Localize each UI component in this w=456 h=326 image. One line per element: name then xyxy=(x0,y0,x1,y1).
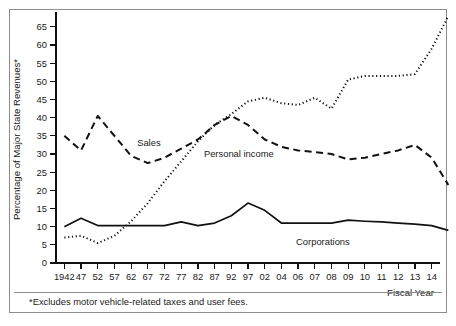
x-axis-tick-label: 1942 xyxy=(54,271,75,282)
series-label-sales: Sales xyxy=(137,137,161,148)
x-axis-tick-label: 13 xyxy=(410,271,420,282)
footnote-text: *Excludes motor vehicle-related taxes an… xyxy=(29,296,248,307)
x-axis-tick-label: 11 xyxy=(377,271,387,282)
series-label-personal-income: Personal income xyxy=(204,148,274,159)
x-axis-tick-label: 07 xyxy=(310,271,320,282)
x-axis-tick-label: 47 xyxy=(76,271,86,282)
x-axis-tick-label: 52 xyxy=(93,271,103,282)
x-axis-tick-label: 72 xyxy=(159,271,169,282)
figure-container: 0510152025303540455055606519424752576267… xyxy=(0,0,456,326)
x-axis-tick-label: 04 xyxy=(276,271,286,282)
x-axis-tick-label: 57 xyxy=(109,271,119,282)
x-axis-tick-label: 92 xyxy=(226,271,236,282)
y-axis-tick-label: 30 xyxy=(37,148,47,159)
y-axis-tick-label: 25 xyxy=(37,167,47,178)
y-axis-tick-label: 15 xyxy=(37,203,47,214)
y-axis-tick-label: 5 xyxy=(42,239,47,250)
series-line-personal-income xyxy=(64,16,448,243)
x-axis-tick-label: 12 xyxy=(393,271,403,282)
x-axis-tick-label: 97 xyxy=(243,271,253,282)
y-axis-tick-label: 40 xyxy=(37,112,47,123)
y-axis-tick-label: 65 xyxy=(37,21,47,32)
y-axis-tick-label: 50 xyxy=(37,76,47,87)
x-axis-tick-label: 02 xyxy=(259,271,269,282)
y-axis-tick-label: 55 xyxy=(37,58,47,69)
y-axis-tick-label: 60 xyxy=(37,39,47,50)
x-axis-tick-label: 06 xyxy=(293,271,303,282)
x-axis-tick-label: 08 xyxy=(326,271,336,282)
y-axis-tick-label: 0 xyxy=(42,257,47,268)
revenue-line-chart: 0510152025303540455055606519424752576267… xyxy=(0,0,456,326)
y-axis-title: Percentage of Major State Revenues* xyxy=(11,59,22,220)
y-axis-tick-label: 20 xyxy=(37,185,47,196)
series-line-corporations xyxy=(64,203,448,230)
x-axis-tick-label: 10 xyxy=(360,271,370,282)
x-axis-tick-label: 82 xyxy=(193,271,203,282)
y-axis-tick-label: 35 xyxy=(37,130,47,141)
y-axis-tick-label: 45 xyxy=(37,94,47,105)
series-label-corporations: Corporations xyxy=(296,236,350,247)
x-axis-tick-label: 62 xyxy=(126,271,136,282)
x-axis-tick-label: 77 xyxy=(176,271,186,282)
x-axis-tick-label: 87 xyxy=(209,271,219,282)
x-axis-tick-label: 67 xyxy=(143,271,153,282)
y-axis-tick-label: 10 xyxy=(37,221,47,232)
x-axis-tick-label: 09 xyxy=(343,271,353,282)
x-axis-tick-label: 14 xyxy=(426,271,436,282)
